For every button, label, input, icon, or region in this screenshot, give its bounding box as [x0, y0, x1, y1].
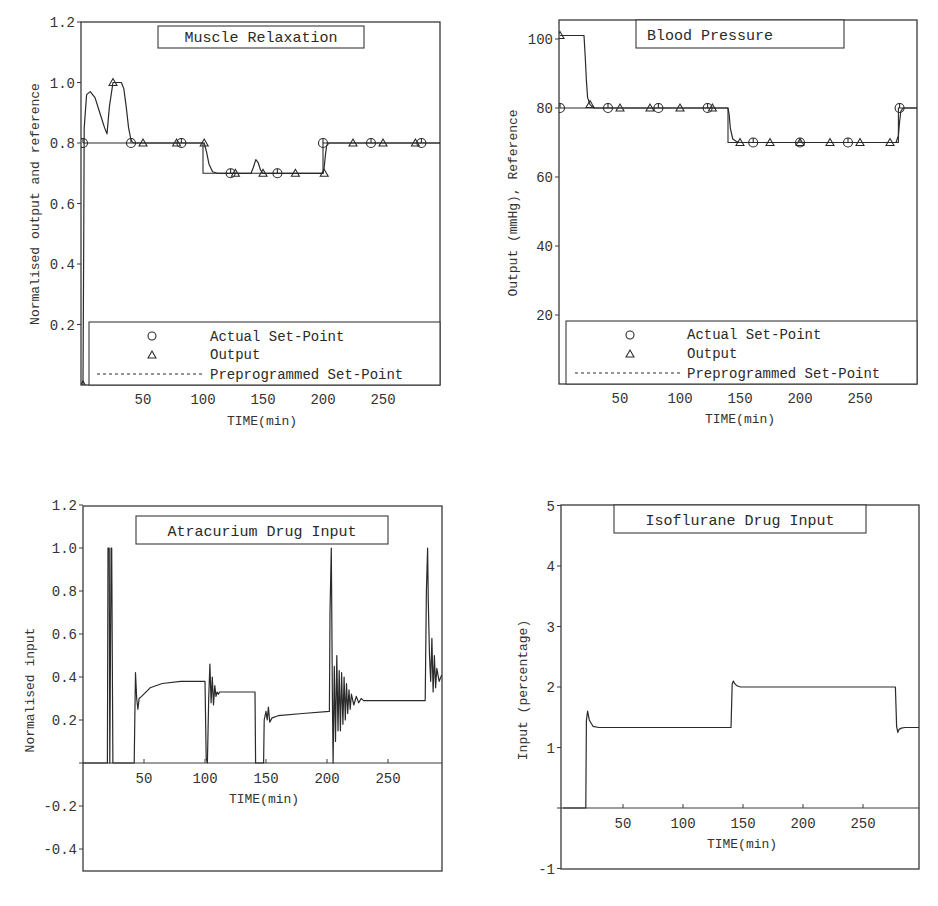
plot-title: Isoflurane Drug Input — [645, 513, 834, 530]
y-tick-label: 0.6 — [50, 197, 75, 213]
plot-atracurium-drug-input: -0.4-0.20.20.40.60.81.01.2 5010015020025… — [23, 498, 442, 871]
y-tick-label: 0.2 — [50, 318, 75, 334]
x-axis: 50100150200250 — [557, 804, 919, 832]
legend: Actual Set-Point Output Preprogrammed Se… — [89, 322, 440, 385]
y-tick-label: 60 — [536, 170, 553, 186]
y-axis: 20406080100 — [528, 32, 559, 324]
plot-frame — [83, 506, 442, 871]
y-axis: -112345 — [538, 499, 561, 878]
x-axis-label: TIME(min) — [707, 837, 777, 852]
y-tick-label: 4 — [547, 559, 555, 575]
y-tick-label: 20 — [536, 308, 553, 324]
x-tick-label: 200 — [790, 816, 815, 832]
legend-label-actual: Actual Set-Point — [687, 327, 821, 343]
legend-label-preprogrammed: Preprogrammed Set-Point — [210, 367, 403, 383]
plot-series — [563, 681, 919, 808]
x-tick-label: 150 — [253, 771, 278, 787]
y-tick-label: 80 — [536, 101, 553, 117]
plot-blood-pressure: 20406080100 50100150200250 Output (mmHg)… — [506, 20, 918, 427]
legend-label-preprogrammed: Preprogrammed Set-Point — [687, 366, 880, 382]
y-tick-label: 1.0 — [50, 76, 75, 92]
plot-series — [83, 548, 442, 763]
plot-muscle-relaxation: 0.20.40.60.81.01.2 50100150200250 Normal… — [28, 15, 441, 429]
y-tick-label: 1.2 — [50, 15, 75, 31]
x-tick-label: 100 — [667, 391, 692, 407]
x-tick-label: 250 — [850, 816, 875, 832]
y-tick-label: 0.4 — [52, 670, 77, 686]
y-axis-label: Normalised output and reference — [28, 83, 43, 325]
x-tick-label: 200 — [787, 391, 812, 407]
x-tick-label: 50 — [612, 391, 629, 407]
y-tick-label: -1 — [538, 862, 555, 878]
legend-label-actual: Actual Set-Point — [210, 329, 344, 345]
legend: Actual Set-Point Output Preprogrammed Se… — [566, 321, 917, 384]
output-line — [560, 36, 918, 143]
y-tick-label: -0.4 — [43, 842, 77, 858]
isoflurane-input-line — [563, 681, 919, 808]
y-tick-label: 0.4 — [50, 257, 75, 273]
x-tick-label: 150 — [727, 391, 752, 407]
y-tick-label: 100 — [528, 32, 553, 48]
plot-title: Blood Pressure — [647, 28, 773, 45]
y-tick-label: 1.2 — [52, 498, 77, 514]
y-tick-label: 1 — [547, 741, 555, 757]
x-tick-label: 200 — [310, 392, 335, 408]
plot-title: Muscle Relaxation — [184, 30, 337, 47]
y-tick-label: -0.2 — [43, 799, 77, 815]
x-tick-label: 150 — [730, 816, 755, 832]
y-tick-label: 2 — [547, 680, 555, 696]
y-axis: 0.20.40.60.81.01.2 — [50, 15, 81, 334]
plot-title: Atracurium Drug Input — [167, 524, 356, 541]
x-tick-label: 150 — [250, 392, 275, 408]
x-tick-label: 100 — [190, 392, 215, 408]
x-axis-label: TIME(min) — [229, 792, 299, 807]
y-axis: -0.4-0.20.20.40.60.81.01.2 — [43, 498, 83, 858]
preprogrammed-set-point-line — [560, 108, 918, 143]
x-tick-label: 50 — [136, 771, 153, 787]
y-tick-label: 5 — [547, 499, 555, 515]
x-axis-label: TIME(min) — [705, 412, 775, 427]
y-tick-label: 0.2 — [52, 713, 77, 729]
y-tick-label: 0.8 — [50, 136, 75, 152]
y-tick-label: 0.8 — [52, 584, 77, 600]
x-tick-label: 100 — [192, 771, 217, 787]
plot-series — [556, 32, 918, 147]
x-tick-label: 50 — [135, 392, 152, 408]
x-tick-label: 200 — [314, 771, 339, 787]
preprogrammed-set-point-line — [83, 143, 441, 173]
x-axis-label: TIME(min) — [227, 414, 297, 429]
x-tick-label: 250 — [847, 391, 872, 407]
figure-canvas: 0.20.40.60.81.01.2 50100150200250 Normal… — [0, 0, 938, 906]
x-tick-label: 100 — [670, 816, 695, 832]
y-tick-label: 3 — [547, 620, 555, 636]
legend-label-output: Output — [687, 346, 737, 362]
legend-label-output: Output — [210, 347, 260, 363]
y-tick-label: 40 — [536, 239, 553, 255]
atracurium-input-line — [83, 548, 442, 763]
x-tick-label: 250 — [370, 392, 395, 408]
plot-isoflurane-drug-input: -112345 50100150200250 Input (percentage… — [516, 499, 919, 878]
y-axis-label: Output (mmHg), Reference — [506, 109, 521, 296]
x-tick-label: 50 — [615, 816, 632, 832]
y-axis-label: Input (percentage) — [516, 620, 531, 760]
y-tick-label: 0.6 — [52, 627, 77, 643]
x-tick-label: 250 — [375, 771, 400, 787]
y-axis-label: Normalised input — [23, 628, 38, 753]
y-tick-label: 1.0 — [52, 541, 77, 557]
